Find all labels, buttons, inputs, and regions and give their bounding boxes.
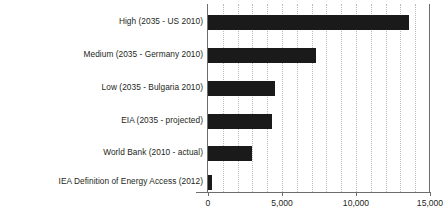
bar <box>208 81 275 96</box>
x-axis-tick <box>282 192 283 196</box>
x-axis-tick-label: 5,000 <box>271 198 293 208</box>
x-axis-tick <box>208 192 209 196</box>
x-axis-tick <box>430 192 431 196</box>
category-label-worldbank: World Bank (2010 - actual) <box>0 147 203 157</box>
bar <box>208 175 212 190</box>
x-axis-line <box>196 192 430 193</box>
gridline <box>400 4 402 192</box>
category-label-high: High (2035 - US 2010) <box>0 16 203 26</box>
gridline <box>371 4 373 192</box>
bar <box>208 114 272 129</box>
gridline <box>415 4 417 192</box>
gridline <box>223 4 225 192</box>
gridline <box>297 4 299 192</box>
x-axis-tick-label: 10,000 <box>343 198 369 208</box>
bar <box>208 15 409 30</box>
gridline <box>341 4 343 192</box>
category-label-column: High (2035 - US 2010) Medium (2035 - Ger… <box>0 0 203 192</box>
x-axis-tick-label: 15,000 <box>417 198 443 208</box>
plot-area <box>208 4 430 192</box>
gridlines <box>208 4 430 192</box>
y-axis-line <box>207 4 208 192</box>
bar <box>208 48 316 63</box>
x-axis-tick-label: 0 <box>206 198 211 208</box>
category-label-low: Low (2035 - Bulgaria 2010) <box>0 82 203 92</box>
plot-right-border <box>429 4 430 192</box>
gridline <box>386 4 388 192</box>
gridline <box>267 4 269 192</box>
gridline <box>238 4 240 192</box>
bar <box>208 146 252 161</box>
gridline <box>252 4 254 192</box>
x-axis-tick <box>356 192 357 196</box>
gridline <box>282 4 284 192</box>
category-label-medium: Medium (2035 - Germany 2010) <box>0 49 203 59</box>
category-label-iea: IEA Definition of Energy Access (2012) <box>0 176 203 186</box>
bar-chart: High (2035 - US 2010) Medium (2035 - Ger… <box>0 0 446 224</box>
category-label-eia: EIA (2035 - projected) <box>0 115 203 125</box>
gridline <box>356 4 358 192</box>
gridline <box>312 4 314 192</box>
gridline <box>326 4 328 192</box>
